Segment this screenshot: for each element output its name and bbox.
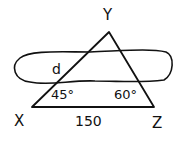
angle-label-z: 60° bbox=[114, 88, 137, 101]
triangle-diagram: Y X Z d 45° 60° 150 bbox=[0, 0, 178, 141]
cloud-blob bbox=[15, 50, 173, 83]
side-label-d: d bbox=[52, 62, 61, 76]
side-length-xz: 150 bbox=[75, 114, 102, 128]
angle-label-x: 45° bbox=[51, 88, 74, 101]
vertex-label-x: X bbox=[14, 114, 24, 129]
vertex-label-z: Z bbox=[152, 116, 162, 131]
vertex-label-y: Y bbox=[103, 8, 112, 23]
